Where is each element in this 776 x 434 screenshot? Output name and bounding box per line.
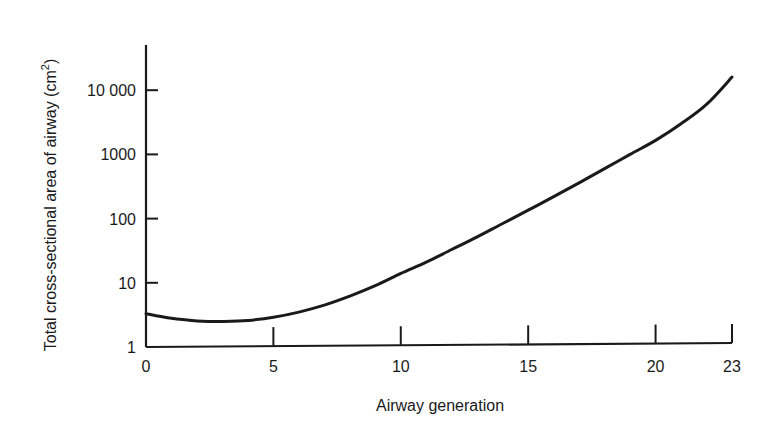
y-tick-label: 1 bbox=[127, 339, 136, 356]
x-tick-label: 15 bbox=[519, 358, 537, 375]
x-tick-label: 0 bbox=[142, 358, 151, 375]
x-ticks: 0510152023 bbox=[142, 324, 741, 375]
y-tick-label: 100 bbox=[109, 211, 136, 228]
x-axis-title: Airway generation bbox=[376, 397, 504, 414]
axes bbox=[146, 45, 732, 347]
x-tick-label: 10 bbox=[392, 358, 410, 375]
x-tick-label: 20 bbox=[647, 358, 665, 375]
y-tick-label: 10 bbox=[118, 275, 136, 292]
data-line bbox=[146, 77, 732, 321]
x-axis-line bbox=[146, 343, 732, 347]
y-tick-label: 10 000 bbox=[87, 82, 136, 99]
chart: 110100100010 000 0510152023 Airway gener… bbox=[0, 0, 776, 434]
y-axis-title-close: ) bbox=[42, 59, 59, 64]
x-tick-label: 23 bbox=[723, 358, 741, 375]
y-axis-title: Total cross-sectional area of airway (cm… bbox=[39, 59, 59, 351]
x-tick-label: 5 bbox=[269, 358, 278, 375]
y-tick-label: 1000 bbox=[100, 146, 136, 163]
y-axis-title-main: Total cross-sectional area of airway (cm bbox=[42, 70, 59, 351]
